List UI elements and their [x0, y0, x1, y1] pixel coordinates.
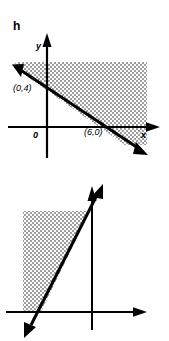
boundary-line-arrowhead-left-h [12, 64, 24, 77]
shaded-region-i [23, 211, 88, 312]
x-axis-arrowhead-i [133, 307, 147, 317]
figure-i: i y x (0,8) (-4,0) 0 [0, 170, 169, 341]
y-intercept-label-h: (0,4) [13, 84, 32, 93]
y-axis-label-h: y [36, 42, 41, 51]
figure-label-h: h [13, 20, 20, 32]
origin-label-h: 0 [33, 131, 38, 140]
x-axis-arrowhead-h [146, 122, 160, 132]
y-axis-arrowhead-h [43, 33, 52, 47]
x-intercept-label-h: (6,0) [84, 128, 103, 137]
figure-i-graph [0, 170, 169, 341]
x-axis-label-h: x [141, 131, 146, 140]
figure-h: h y x (0,4) (6,0) 0 [0, 0, 169, 170]
